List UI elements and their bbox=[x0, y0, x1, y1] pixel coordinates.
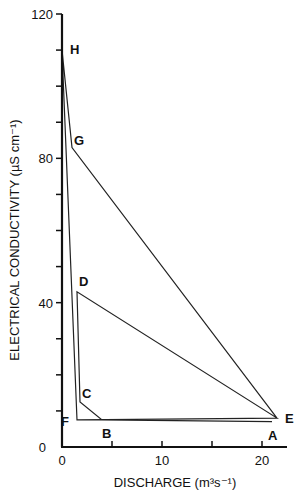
chart: 0408012001020 ABCDEFHG DISCHARGE (m³s⁻¹)… bbox=[0, 0, 301, 497]
axis-ticks: 0408012001020 bbox=[31, 7, 269, 468]
point-labels: ABCDEFHG bbox=[61, 42, 294, 443]
point-label-g: G bbox=[74, 133, 84, 148]
y-tick-label: 0 bbox=[39, 440, 46, 455]
point-label-c: C bbox=[82, 386, 92, 401]
data-series bbox=[62, 50, 277, 422]
y-axis-title: ELECTRICAL CONDUCTIVITY (µS cm⁻¹) bbox=[7, 119, 22, 360]
x-tick-label: 0 bbox=[58, 453, 65, 468]
x-tick-label: 20 bbox=[255, 453, 269, 468]
point-label-h: H bbox=[70, 42, 79, 57]
hysteresis-line bbox=[62, 50, 277, 422]
point-label-b: B bbox=[102, 426, 111, 441]
y-tick-label: 40 bbox=[39, 296, 53, 311]
x-axis-title: DISCHARGE (m³s⁻¹) bbox=[114, 475, 237, 490]
point-label-a: A bbox=[268, 428, 278, 443]
x-tick-label: 10 bbox=[155, 453, 169, 468]
point-label-e: E bbox=[285, 411, 294, 426]
y-tick-label: 120 bbox=[31, 7, 53, 22]
point-label-f: F bbox=[61, 414, 69, 429]
point-label-d: D bbox=[79, 274, 88, 289]
axes bbox=[61, 14, 287, 447]
y-tick-label: 80 bbox=[39, 151, 53, 166]
